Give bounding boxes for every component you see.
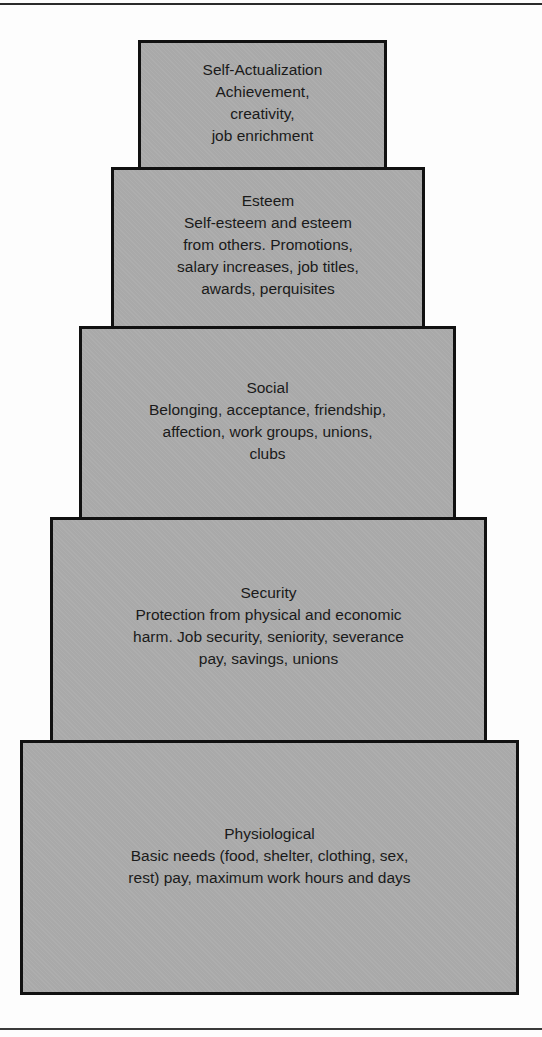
tier-title: Self-Actualization [203,59,323,81]
tier-title: Physiological [224,823,314,845]
tier-title: Security [241,582,297,604]
tier-description: Basic needs (food, shelter, clothing, se… [128,845,410,889]
top-rule [0,3,542,5]
tier-description: Belonging, acceptance, friendship, affec… [149,399,386,465]
tier-title: Esteem [242,190,295,212]
tier-description: Achievement, creativity, job enrichment [212,81,314,147]
tier-title: Social [246,377,288,399]
tier-esteem: Esteem Self-esteem and esteem from other… [111,167,425,329]
bottom-rule [0,1028,542,1030]
tier-social: Social Belonging, acceptance, friendship… [79,326,456,520]
tier-description: Protection from physical and economic ha… [133,604,404,670]
tier-description: Self-esteem and esteem from others. Prom… [177,212,359,300]
tier-physiological: Physiological Basic needs (food, shelter… [20,740,519,995]
tier-security: Security Protection from physical and ec… [50,517,487,743]
tier-self-actualization: Self-Actualization Achievement, creativi… [138,40,387,171]
